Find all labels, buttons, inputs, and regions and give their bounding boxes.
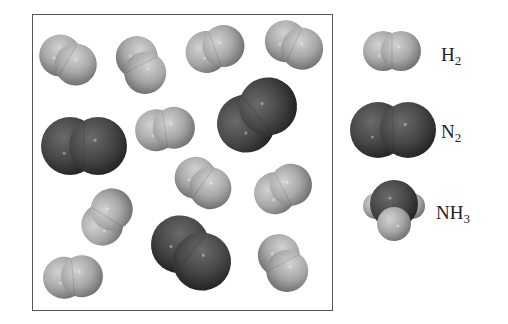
- n2-molecule: [205, 66, 308, 165]
- h2-molecule: [180, 19, 251, 79]
- legend-n2-molecule-icon: [350, 102, 436, 158]
- h2-molecule: [41, 253, 104, 300]
- legend-label-n2: N2: [441, 122, 461, 141]
- h2-molecule: [108, 29, 173, 102]
- legend-nh3-molecule-icon: [363, 180, 425, 241]
- legend-h2-molecule-icon: [363, 31, 421, 71]
- h2-molecule: [73, 180, 140, 253]
- n2-molecule: [139, 204, 242, 303]
- h2-molecule: [258, 13, 330, 76]
- legend-label-nh3: NH3: [436, 203, 470, 222]
- legend-label-h2: H2: [441, 45, 461, 64]
- molecule-diagram: H2 N2 NH3: [0, 0, 508, 324]
- molecules-layer: [0, 0, 508, 324]
- h2-molecule: [250, 227, 315, 300]
- h2-molecule: [166, 149, 239, 218]
- h2-molecule: [247, 156, 320, 221]
- h2-molecule: [32, 27, 105, 93]
- n2-molecule: [41, 117, 127, 175]
- h2-molecule: [132, 104, 197, 154]
